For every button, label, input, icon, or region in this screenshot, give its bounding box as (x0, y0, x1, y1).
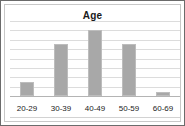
bar-60-69 (156, 92, 170, 96)
axis-bottom-rule (10, 117, 180, 118)
x-axis-label-30-39: 30-39 (44, 103, 78, 115)
x-axis-label-group: 20-2930-3940-4950-5960-69 (10, 103, 180, 117)
axis-baseline (10, 96, 180, 97)
bar-40-49 (88, 30, 102, 96)
chart-plot-container: Age 20-2930-3940-4950-5960-69 (4, 4, 181, 122)
bar-50-59 (122, 44, 136, 96)
bars-group (10, 21, 180, 96)
plot-area (10, 21, 180, 96)
x-axis-label-40-49: 40-49 (78, 103, 112, 115)
x-axis-label-60-69: 60-69 (146, 103, 180, 115)
bar-30-39 (54, 44, 68, 96)
chart-frame: Age 20-2930-3940-4950-5960-69 (0, 0, 185, 126)
bar-20-29 (20, 82, 34, 96)
x-axis-label-50-59: 50-59 (112, 103, 146, 115)
x-axis-label-20-29: 20-29 (10, 103, 44, 115)
